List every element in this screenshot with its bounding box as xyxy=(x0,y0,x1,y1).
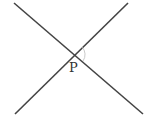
angle-arc xyxy=(82,47,85,61)
diagram-svg: P xyxy=(0,0,153,122)
line-1 xyxy=(14,3,143,114)
line-2 xyxy=(15,3,128,114)
intersecting-lines-diagram: P xyxy=(0,0,153,122)
point-label-p: P xyxy=(69,60,78,75)
